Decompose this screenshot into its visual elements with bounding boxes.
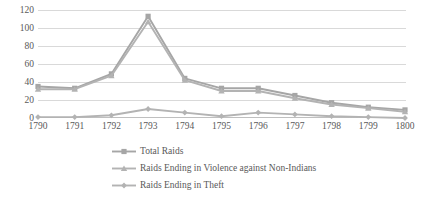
- x-axis-tick-label: 1799: [359, 121, 378, 131]
- diamond-marker-icon: [182, 110, 188, 116]
- square-marker-icon: [121, 149, 126, 154]
- legend-item[interactable]: Total Raids: [0, 143, 423, 160]
- x-axis-tick-label: 1796: [249, 121, 268, 131]
- line-chart: 020406080100120 179017911792179317941795…: [0, 0, 423, 200]
- diamond-marker-icon: [111, 180, 137, 191]
- legend-item[interactable]: Raids Ending in Violence against Non-Ind…: [0, 160, 423, 177]
- legend-item[interactable]: Raids Ending in Theft: [0, 177, 423, 194]
- y-axis-tick-label: 120: [0, 6, 34, 15]
- diamond-marker-icon: [365, 114, 371, 120]
- series-line: [38, 16, 405, 110]
- series-total-raids: [35, 14, 407, 113]
- x-axis-tick-label: 1798: [322, 121, 341, 131]
- diamond-marker-icon: [109, 112, 115, 118]
- diamond-marker-icon: [329, 113, 335, 119]
- y-axis-tick-label: 100: [0, 24, 34, 33]
- diamond-marker-icon: [72, 114, 78, 120]
- y-axis-tick-label: 40: [0, 78, 34, 87]
- square-marker-icon: [146, 14, 151, 19]
- triangle-marker-icon: [111, 163, 137, 174]
- series-raids-ending-in-theft: [35, 106, 408, 121]
- diamond-marker-icon: [219, 113, 225, 119]
- x-axis-tick-label: 1800: [396, 121, 415, 131]
- series-layer: [38, 10, 406, 118]
- x-axis-tick-label: 1793: [139, 121, 158, 131]
- y-axis-tick-label: 80: [0, 42, 34, 51]
- y-axis-tick-label: 20: [0, 96, 34, 105]
- y-axis-tick-label: 60: [0, 60, 34, 69]
- diamond-marker-icon: [121, 183, 127, 189]
- series-line: [38, 22, 405, 112]
- legend-item-label: Raids Ending in Theft: [140, 180, 224, 191]
- square-marker-icon: [111, 146, 137, 157]
- diamond-marker-icon: [255, 110, 261, 116]
- x-axis-tick-label: 1795: [212, 121, 231, 131]
- legend-item-label: Total Raids: [140, 146, 183, 157]
- diamond-marker-icon: [292, 112, 298, 118]
- x-axis-tick-label: 1797: [285, 121, 304, 131]
- diamond-marker-icon: [145, 106, 151, 112]
- x-axis: 1790179117921793179417951796179717981799…: [38, 121, 406, 135]
- series-raids-ending-in-violence-against-non-indians: [35, 19, 408, 115]
- x-axis-tick-label: 1794: [175, 121, 194, 131]
- x-axis-tick-label: 1791: [65, 121, 84, 131]
- x-axis-tick-label: 1792: [102, 121, 121, 131]
- diamond-marker-icon: [35, 114, 41, 120]
- legend-item-label: Raids Ending in Violence against Non-Ind…: [140, 163, 316, 174]
- plot-area: [38, 10, 406, 118]
- chart-legend: Total RaidsRaids Ending in Violence agai…: [0, 143, 423, 194]
- x-axis-tick-label: 1790: [29, 121, 48, 131]
- y-axis: 020406080100120: [0, 10, 34, 118]
